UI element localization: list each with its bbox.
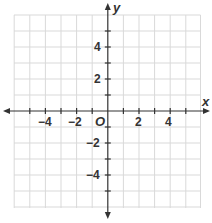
- coordinate-plane: x y O −4 −2 2 4 4 2 −2 −4: [0, 0, 212, 223]
- x-axis-label: x: [201, 94, 210, 109]
- y-axis-down-arrow-icon: [105, 212, 111, 219]
- x-axis-left-arrow-icon: [3, 108, 10, 114]
- y-axis-up-arrow-icon: [105, 3, 111, 10]
- y-tick-label-neg2: −2: [86, 136, 100, 150]
- x-axis: [6, 108, 208, 114]
- y-axis-label: y: [112, 0, 121, 15]
- x-tick-label-4: 4: [165, 115, 172, 129]
- x-tick-label-neg4: −4: [38, 115, 52, 129]
- x-tick-label-2: 2: [135, 115, 142, 129]
- x-tick-label-neg2: −2: [68, 115, 82, 129]
- origin-label: O: [95, 114, 105, 129]
- y-tick-label-neg4: −4: [86, 168, 100, 182]
- y-tick-label-2: 2: [94, 72, 101, 86]
- y-tick-label-4: 4: [94, 40, 101, 54]
